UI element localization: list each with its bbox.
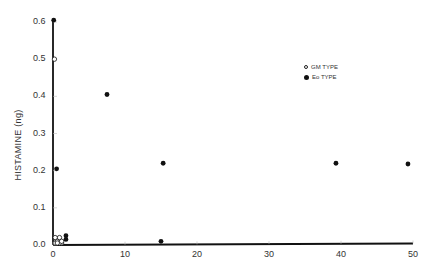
legend-label: Eo TYPE: [312, 72, 337, 82]
gm-type-point: [59, 239, 63, 243]
legend: GM TYPE Eo TYPE: [304, 62, 338, 82]
eo-type-point: [406, 162, 411, 167]
y-tick-label: 0.6: [33, 16, 46, 26]
x-tick-label: 50: [408, 249, 418, 259]
eo-type-point: [51, 18, 56, 23]
y-tick-label: 0.1: [33, 202, 46, 212]
legend-label: GM TYPE: [311, 62, 338, 72]
y-tick-label: 0.0: [33, 239, 46, 249]
eo-type-point: [159, 239, 164, 244]
x-tick-label: 40: [336, 249, 346, 259]
eo-type-point: [161, 161, 166, 166]
gm-type-point: [55, 241, 59, 245]
scatter-chart: [0, 0, 435, 273]
y-tick-label: 0.4: [33, 90, 46, 100]
eo-type-point: [105, 92, 110, 97]
eo-type-point: [54, 166, 59, 171]
x-tick-label: 30: [264, 249, 274, 259]
eo-type-point: [334, 161, 339, 166]
x-tick-label: 10: [120, 249, 130, 259]
legend-item-gm-type: GM TYPE: [304, 62, 338, 72]
data-points: [51, 18, 410, 245]
y-tick-label: 0.2: [33, 165, 46, 175]
chart-axes: [53, 22, 413, 245]
gm-type-point: [53, 235, 57, 239]
eo-type-point: [64, 237, 69, 242]
y-tick-label: 0.3: [33, 128, 46, 138]
filled-circle-icon: [304, 75, 309, 80]
x-tick-label: 0: [51, 249, 56, 259]
y-axis-label: HISTAMINE (ng): [13, 105, 23, 185]
y-tick-label: 0.5: [33, 53, 46, 63]
x-tick-label: 20: [192, 249, 202, 259]
x-axis-line: [53, 244, 413, 246]
legend-item-eo-type: Eo TYPE: [304, 72, 338, 82]
gm-type-point: [52, 57, 56, 61]
open-circle-icon: [304, 65, 308, 69]
